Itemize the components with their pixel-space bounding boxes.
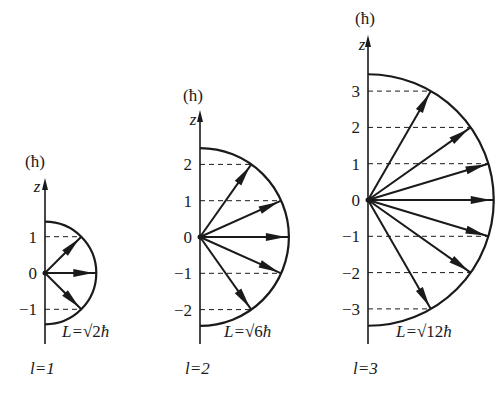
L-prefix: L=	[395, 322, 417, 341]
unit-label: (ħ)	[25, 152, 45, 171]
vector-arrowhead	[465, 165, 485, 175]
z-axis-label: z	[33, 177, 41, 196]
L-magnitude-label: L=√12ħ	[395, 322, 452, 341]
vector-arrowhead	[450, 256, 469, 271]
vector-arrowhead	[73, 269, 93, 277]
L-magnitude-label: L=√2ħ	[61, 322, 109, 341]
origin-point	[198, 235, 203, 240]
m-tick-label: 0	[29, 264, 38, 283]
vector-arrowhead	[465, 226, 485, 236]
m-tick-label: −2	[342, 264, 360, 283]
angular-momentum-quantization-diagram: (ħ) z L=√2ħ l=1 10−1 (ħ) z L=√6ħ l=2 210…	[0, 0, 496, 406]
L-radicand: 6	[254, 322, 263, 341]
vector-arrowhead	[235, 167, 250, 186]
m-tick-label: −1	[342, 227, 360, 246]
m-tick-label: −1	[19, 300, 37, 319]
m-tick-label: 1	[352, 155, 361, 174]
L-radicand: 2	[92, 322, 101, 341]
m-tick-label: 0	[184, 228, 193, 247]
m-tick-label: −1	[174, 264, 192, 283]
z-axis-label: z	[358, 35, 366, 54]
m-tick-label: 3	[352, 82, 361, 101]
origin-point	[43, 271, 48, 276]
vector-arrowhead	[450, 129, 469, 144]
m-tick-label: 1	[29, 228, 38, 247]
l-quantum-number-label: l=1	[30, 359, 55, 378]
vector-arrowhead	[259, 260, 279, 272]
z-axis-arrowhead	[42, 178, 48, 190]
m-tick-label: 2	[184, 155, 193, 174]
l-quantum-number-label: l=3	[353, 359, 378, 378]
panel-l3: (ħ) z L=√12ħ l=3 3210−1−2−3	[342, 9, 494, 378]
m-tick-label: −3	[342, 300, 360, 319]
hbar-symbol: ħ	[443, 322, 452, 341]
unit-label: (ħ)	[355, 9, 375, 28]
vector-arrowhead	[259, 202, 279, 214]
vector-arrowhead	[235, 289, 250, 308]
m-tick-label: 2	[352, 118, 361, 137]
m-tick-label: 1	[184, 192, 193, 211]
panel-l2: (ħ) z L=√6ħ l=2 210−1−2	[174, 86, 289, 378]
z-axis-arrowhead	[197, 110, 203, 122]
l-quantum-number-label: l=2	[185, 359, 210, 378]
vector-arrowhead	[266, 233, 286, 241]
L-prefix: L=	[223, 322, 245, 341]
z-axis-arrowhead	[365, 35, 371, 47]
panel-l1: (ħ) z L=√2ħ l=1 10−1	[19, 152, 109, 378]
z-axis-label: z	[189, 110, 197, 129]
L-magnitude-label: L=√6ħ	[223, 322, 271, 341]
hbar-symbol: ħ	[263, 322, 272, 341]
L-prefix: L=	[61, 322, 83, 341]
hbar-symbol: ħ	[101, 322, 110, 341]
m-tick-label: 0	[352, 191, 361, 210]
vector-arrowhead	[416, 94, 429, 113]
vector-arrowhead	[416, 287, 429, 306]
origin-point	[366, 198, 371, 203]
vector-arrowhead	[471, 196, 491, 204]
unit-label: (ħ)	[183, 86, 203, 105]
L-radicand: 12	[426, 322, 443, 341]
m-tick-label: −2	[174, 301, 192, 320]
